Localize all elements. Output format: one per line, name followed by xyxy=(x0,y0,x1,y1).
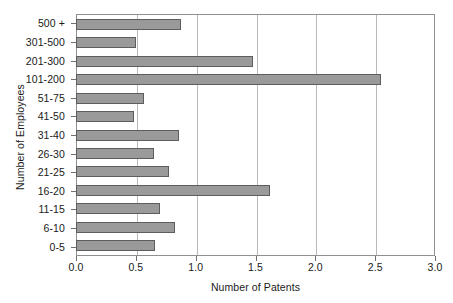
x-axis-tick-label: 2.0 xyxy=(308,261,323,273)
bar-row xyxy=(77,200,434,218)
bar xyxy=(76,74,381,85)
bar-row xyxy=(77,33,434,51)
y-axis-tick-label: 41-50 xyxy=(18,107,70,126)
x-axis-tick-label: 1.0 xyxy=(188,261,203,273)
y-axis-tick-label: 26-30 xyxy=(18,144,70,163)
bar-row xyxy=(77,126,434,144)
bar xyxy=(76,166,169,177)
x-axis-title: Number of Patents xyxy=(76,281,435,293)
bar xyxy=(76,222,175,233)
y-axis-tick-label: 0-5 xyxy=(18,237,70,256)
bars-layer xyxy=(77,15,434,255)
bar-row xyxy=(77,107,434,125)
y-axis-tick-label: 201-300 xyxy=(18,51,70,70)
bar-row xyxy=(77,181,434,199)
y-axis-tick-label: 21-25 xyxy=(18,163,70,182)
bar-row xyxy=(77,89,434,107)
bar xyxy=(76,111,134,122)
plot-area xyxy=(76,14,435,256)
bar-row xyxy=(77,70,434,88)
bar-row xyxy=(77,237,434,255)
x-axis-tick-label: 0.5 xyxy=(128,261,143,273)
x-axis-tick-label: 3.0 xyxy=(428,261,443,273)
x-axis-tick-label: 0.0 xyxy=(69,261,84,273)
y-axis-tick-label: 16-20 xyxy=(18,181,70,200)
y-axis-tick-label: 11-15 xyxy=(18,200,70,219)
bar-chart: Number of Employees 500 +301-500201-3001… xyxy=(0,0,453,303)
y-axis-tick-label: 51-75 xyxy=(18,88,70,107)
y-axis-tick-labels: 500 +301-500201-300101-20051-7541-5031-4… xyxy=(18,14,70,256)
bar-row xyxy=(77,15,434,33)
x-axis-tick-label: 2.5 xyxy=(368,261,383,273)
bar-row xyxy=(77,163,434,181)
bar-row xyxy=(77,218,434,236)
y-axis-tick-label: 31-40 xyxy=(18,126,70,145)
x-axis-tick-label: 1.5 xyxy=(248,261,263,273)
y-axis-tick-label: 6-10 xyxy=(18,219,70,238)
x-axis-tick-labels: 0.00.51.01.52.02.53.0 xyxy=(76,261,435,275)
bar xyxy=(76,93,144,104)
bar xyxy=(76,56,253,67)
bar-row xyxy=(77,144,434,162)
bar xyxy=(76,37,136,48)
y-axis-tick-label: 101-200 xyxy=(18,70,70,89)
bar xyxy=(76,148,154,159)
bar xyxy=(76,130,179,141)
bar xyxy=(76,185,270,196)
bar xyxy=(76,203,160,214)
bar xyxy=(76,240,155,251)
y-axis-tick-label: 500 + xyxy=(18,14,70,33)
bar-row xyxy=(77,52,434,70)
y-axis-tick-label: 301-500 xyxy=(18,33,70,52)
bar xyxy=(76,19,181,30)
